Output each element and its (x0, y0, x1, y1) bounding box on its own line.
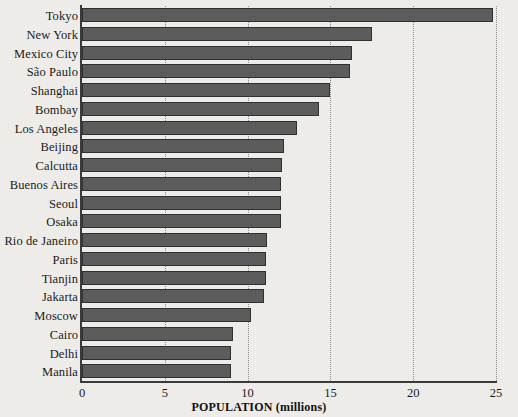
population-bar-chart: TokyoNew YorkMexico CitySão PauloShangha… (0, 0, 518, 417)
chart-row: Mexico City (82, 44, 496, 64)
x-tick-label-20: 20 (407, 386, 420, 401)
category-label-manila: Manila (42, 362, 78, 382)
category-label-cairo: Cairo (50, 325, 78, 345)
category-label-delhi: Delhi (50, 344, 78, 364)
x-tick-label-5: 5 (162, 386, 168, 401)
category-label-moscow: Moscow (34, 306, 78, 326)
chart-row: Bombay (82, 100, 496, 120)
chart-row: Tianjin (82, 269, 496, 289)
chart-row: Seoul (82, 194, 496, 214)
chart-row: Beijing (82, 137, 496, 157)
bar-beijing (82, 139, 284, 153)
x-tick-label-10: 10 (241, 386, 254, 401)
bar-buenos-aires (82, 177, 281, 191)
category-label-s-o-paulo: São Paulo (27, 62, 78, 82)
x-axis-title: POPULATION (millions) (0, 400, 518, 415)
chart-row: Paris (82, 250, 496, 270)
category-label-osaka: Osaka (46, 212, 78, 232)
chart-row: Los Angeles (82, 119, 496, 139)
chart-row: Delhi (82, 344, 496, 364)
category-label-paris: Paris (53, 250, 79, 270)
chart-row: Rio de Janeiro (82, 231, 496, 251)
bar-calcutta (82, 158, 282, 172)
bar-cairo (82, 327, 233, 341)
bar-moscow (82, 308, 251, 322)
chart-row: Manila (82, 362, 496, 382)
chart-row: São Paulo (82, 62, 496, 82)
bar-tianjin (82, 271, 266, 285)
category-label-shanghai: Shanghai (31, 81, 78, 101)
category-label-beijing: Beijing (40, 137, 78, 157)
chart-row: Tokyo (82, 6, 496, 26)
bar-paris (82, 252, 266, 266)
category-label-new-york: New York (26, 25, 78, 45)
category-label-buenos-aires: Buenos Aires (10, 175, 78, 195)
bar-manila (82, 364, 231, 378)
chart-row: Moscow (82, 306, 496, 326)
bar-los-angeles (82, 121, 297, 135)
bar-s-o-paulo (82, 64, 350, 78)
category-label-bombay: Bombay (35, 100, 78, 120)
bar-seoul (82, 196, 281, 210)
category-label-mexico-city: Mexico City (14, 44, 78, 64)
bar-delhi (82, 346, 231, 360)
gridline-25 (496, 6, 498, 381)
bar-osaka (82, 214, 281, 228)
plot-area: TokyoNew YorkMexico CitySão PauloShangha… (82, 6, 496, 381)
chart-row: Shanghai (82, 81, 496, 101)
category-label-seoul: Seoul (49, 194, 78, 214)
chart-row: Cairo (82, 325, 496, 345)
bar-tokyo (82, 8, 493, 22)
category-label-jakarta: Jakarta (42, 287, 78, 307)
x-tick-label-15: 15 (324, 386, 337, 401)
bar-jakarta (82, 289, 264, 303)
category-label-tokyo: Tokyo (46, 6, 78, 26)
bar-shanghai (82, 83, 330, 97)
chart-row: New York (82, 25, 496, 45)
category-label-calcutta: Calcutta (36, 156, 78, 176)
chart-row: Buenos Aires (82, 175, 496, 195)
bar-rio-de-janeiro (82, 233, 267, 247)
chart-row: Jakarta (82, 287, 496, 307)
category-label-tianjin: Tianjin (42, 269, 78, 289)
category-label-rio-de-janeiro: Rio de Janeiro (4, 231, 78, 251)
bar-new-york (82, 27, 372, 41)
category-label-los-angeles: Los Angeles (15, 119, 78, 139)
bar-bombay (82, 102, 319, 116)
bar-mexico-city (82, 46, 352, 60)
x-tick-label-25: 25 (490, 386, 503, 401)
chart-row: Calcutta (82, 156, 496, 176)
chart-row: Osaka (82, 212, 496, 232)
x-tick-label-0: 0 (79, 386, 85, 401)
